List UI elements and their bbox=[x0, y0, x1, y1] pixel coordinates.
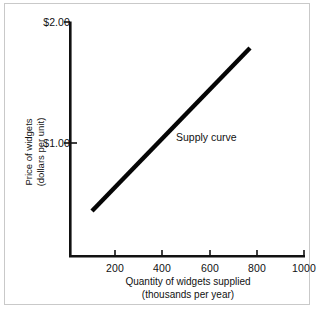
supply-curve-line bbox=[92, 48, 250, 211]
x-axis-label-sub: (thousands per year) bbox=[70, 289, 306, 302]
x-axis-label: Quantity of widgets supplied (thousands … bbox=[70, 276, 306, 301]
y-axis-label-main: Price of widgets bbox=[23, 77, 35, 227]
x-tick-label-200: 200 bbox=[106, 262, 124, 274]
x-axis-label-main: Quantity of widgets supplied bbox=[70, 276, 306, 289]
x-tick-label-800: 800 bbox=[248, 262, 266, 274]
supply-curve-annotation: Supply curve bbox=[176, 131, 237, 143]
x-tick-label-600: 600 bbox=[201, 262, 219, 274]
y-tick-label-2-00: $2.00 bbox=[43, 16, 70, 28]
y-axis-label-sub: (dollars per unit) bbox=[35, 77, 47, 227]
supply-curve-figure: $2.00 $1.00 200 400 600 800 1000 Price o… bbox=[0, 0, 322, 315]
x-tick-label-1000: 1000 bbox=[292, 262, 316, 274]
y-tick-label-1-00: $1.00 bbox=[43, 137, 70, 149]
y-axis-label: Price of widgets (dollars per unit) bbox=[23, 77, 47, 227]
x-tick-label-400: 400 bbox=[153, 262, 171, 274]
